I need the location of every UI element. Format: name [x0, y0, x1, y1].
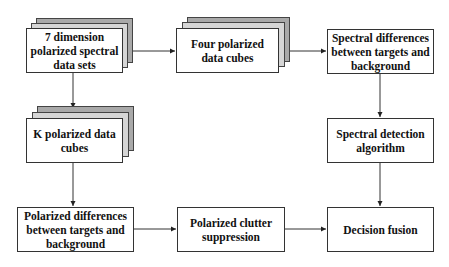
node-label: Polarized clutter suppression — [181, 216, 281, 244]
node-label: Spectral differences between targets and… — [331, 31, 430, 73]
flowchart-canvas: 7 dimension polarized spectral data sets… — [0, 0, 449, 267]
node-polarized-differences: Polarized differences between targets an… — [17, 207, 134, 252]
node-k-polarized-data-cubes: K polarized data cubes — [26, 118, 123, 163]
node-spectral-differences: Spectral differences between targets and… — [327, 29, 434, 74]
node-label: Spectral detection algorithm — [331, 127, 430, 155]
node-label: Polarized differences between targets an… — [21, 209, 130, 251]
node-spectral-detection-algorithm: Spectral detection algorithm — [327, 118, 434, 163]
node-label: K polarized data cubes — [30, 127, 119, 155]
node-label: Decision fusion — [343, 223, 417, 237]
node-four-polarized-data-cubes: Four polarized data cubes — [176, 28, 279, 73]
node-label: 7 dimension polarized spectral data sets — [30, 30, 119, 72]
node-7-dimension-data-sets: 7 dimension polarized spectral data sets — [26, 28, 123, 73]
node-label: Four polarized data cubes — [180, 37, 275, 65]
node-decision-fusion: Decision fusion — [327, 207, 434, 252]
node-polarized-clutter-suppression: Polarized clutter suppression — [177, 207, 285, 252]
